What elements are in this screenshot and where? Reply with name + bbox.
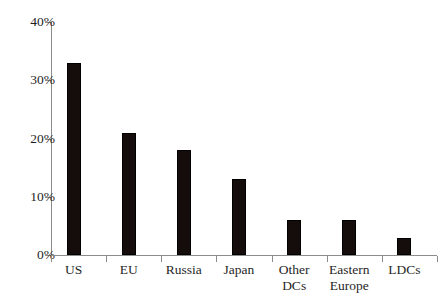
plot-area [51, 22, 437, 255]
bar [287, 220, 301, 255]
bar-chart: 0%10%20%30%40% USEURussiaJapanOther DCsE… [0, 0, 447, 307]
x-axis-category-label: Russia [156, 262, 211, 278]
x-axis-category-label: Other DCs [267, 262, 322, 294]
bar [342, 220, 356, 255]
x-axis-category-label: EU [101, 262, 156, 278]
bar [67, 63, 81, 255]
x-axis-category-label: LDCs [377, 262, 432, 278]
x-axis-tick-mark [437, 256, 438, 262]
x-axis-category-label: Japan [211, 262, 266, 278]
bar [397, 238, 411, 255]
bar [177, 150, 191, 255]
x-axis-category-label: US [46, 262, 101, 278]
bar [122, 133, 136, 255]
x-axis-line [51, 255, 437, 256]
bar [232, 179, 246, 255]
x-axis-category-label: Eastern Europe [322, 262, 377, 294]
